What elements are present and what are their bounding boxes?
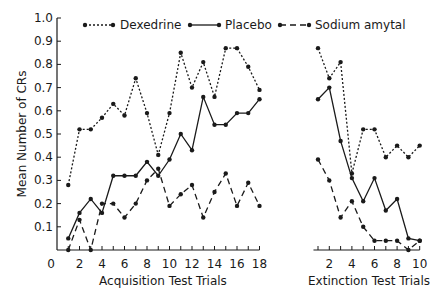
y-axis: 0.10.20.30.40.50.60.70.80.91.0 [34,11,61,250]
data-point [372,127,376,131]
data-point [134,76,138,80]
data-point [361,199,365,203]
acquisition-x-axis-label: Acquisition Test Trials [99,274,227,288]
data-point [327,178,331,182]
data-point [418,143,422,147]
data-point [156,167,160,171]
x-tick-label: 6 [121,257,129,271]
data-point [111,201,115,205]
y-tick-label: 0.5 [34,127,53,141]
series-line-sodium-amytal [68,169,259,250]
data-point [395,143,399,147]
y-tick-label: 0.1 [34,220,53,234]
svg-text:Sodium amytal: Sodium amytal [315,18,406,32]
data-point [384,239,388,243]
svg-text:Placebo: Placebo [225,18,272,32]
x-tick-label: 18 [252,257,267,271]
x-tick-label: 14 [207,257,222,271]
data-point [212,95,216,99]
data-point [134,201,138,205]
data-point [395,239,399,243]
data-point [246,65,250,69]
y-tick-label: 0.9 [34,34,53,48]
y-tick-label: 0.7 [34,81,53,95]
legend-item-placebo: Placebo [188,18,272,32]
data-point [89,248,93,252]
data-point [316,46,320,50]
y-tick-label: 1.0 [34,11,53,25]
data-point [122,174,126,178]
x-tick-label: 2 [325,257,333,271]
series-line-placebo [68,97,259,239]
data-point [257,88,261,92]
data-point [111,102,115,106]
y-tick-label: 0.4 [34,150,53,164]
series-line-placebo [318,88,420,241]
data-point [190,183,194,187]
data-point [257,204,261,208]
data-point [89,197,93,201]
x-tick-label: 10 [162,257,177,271]
legend: DexedrinePlaceboSodium amytal [83,18,406,32]
data-point [167,204,171,208]
data-point [418,239,422,243]
extinction-plot [316,46,422,252]
x-tick-label: 4 [348,257,356,271]
x-tick-label: 8 [143,257,151,271]
data-point [66,183,70,187]
data-point [122,113,126,117]
origin-label: 0 [47,257,55,271]
data-point [361,225,365,229]
chart-canvas: DexedrinePlaceboSodium amytal 0.10.20.30… [0,0,445,294]
series-line-dexedrine [68,48,259,185]
extinction-x-axis-label: Extinction Test Trials [308,274,430,288]
data-point [235,111,239,115]
y-tick-label: 0.6 [34,104,53,118]
data-point [156,153,160,157]
data-point [190,148,194,152]
data-point [246,181,250,185]
legend-item-sodium-amytal: Sodium amytal [278,18,406,32]
data-point [89,127,93,131]
data-point [167,111,171,115]
data-point [406,236,410,240]
data-point [201,95,205,99]
data-point [111,174,115,178]
data-point [338,215,342,219]
data-point [316,157,320,161]
data-point [66,248,70,252]
data-point [327,76,331,80]
data-point [179,51,183,55]
data-point [212,123,216,127]
data-point [327,85,331,89]
data-point [338,139,342,143]
data-point [406,248,410,252]
data-point [145,160,149,164]
x-tick-label: 16 [229,257,244,271]
data-point [350,199,354,203]
data-point [338,60,342,64]
data-point [361,127,365,131]
x-tick-label: 6 [371,257,379,271]
data-point [66,236,70,240]
y-axis-label: Mean Number of CRs [15,71,29,198]
data-point [384,155,388,159]
data-point [257,97,261,101]
data-point [100,116,104,120]
legend-item-dexedrine: Dexedrine [83,18,182,32]
data-point [179,192,183,196]
data-point [224,171,228,175]
data-point [235,46,239,50]
x-tick-label: 10 [412,257,427,271]
data-point [201,215,205,219]
data-point [372,176,376,180]
y-tick-label: 0.2 [34,197,53,211]
x-tick-label: 8 [393,257,401,271]
data-point [224,46,228,50]
svg-text:Dexedrine: Dexedrine [120,18,181,32]
data-point [145,178,149,182]
y-tick-label: 0.3 [34,173,53,187]
data-point [350,176,354,180]
data-point [145,111,149,115]
data-point [316,97,320,101]
